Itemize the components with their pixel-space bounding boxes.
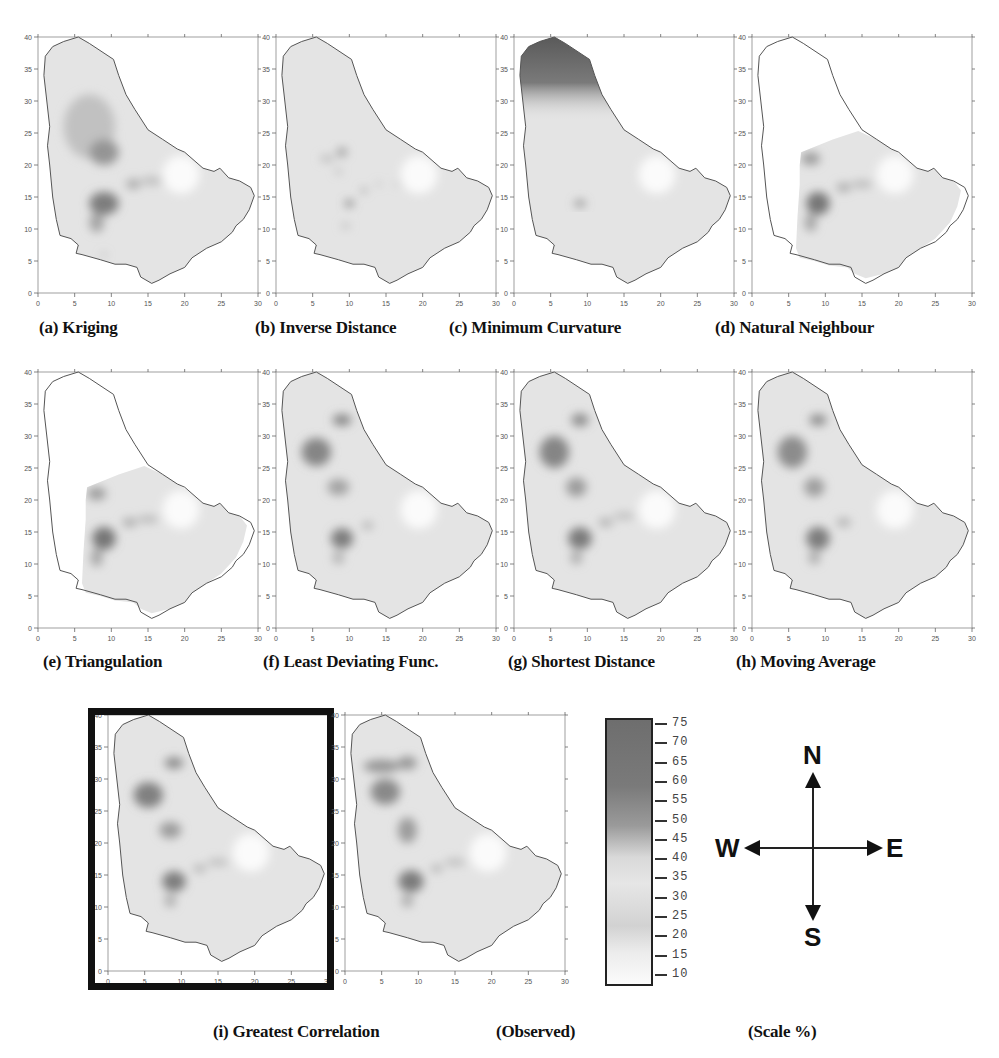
svg-text:30: 30 [24,433,32,440]
svg-text:25: 25 [931,300,939,307]
svg-text:30: 30 [500,98,508,105]
svg-text:10: 10 [345,300,353,307]
svg-text:35: 35 [331,744,339,751]
svg-text:20: 20 [657,300,665,307]
svg-text:15: 15 [620,300,628,307]
caption-i: (i) Greatest Correlation [213,1022,379,1042]
svg-text:15: 15 [382,635,390,642]
svg-text:0: 0 [750,300,754,307]
compass-east-label: E [886,833,903,864]
scale-tick-label: 45 [672,832,688,846]
svg-text:15: 15 [144,635,152,642]
svg-text:40: 40 [738,34,746,41]
svg-text:10: 10 [107,300,115,307]
svg-text:20: 20 [331,840,339,847]
svg-text:5: 5 [549,300,553,307]
caption-a: (a) Kriging [39,318,118,338]
scale-tick-label: 55 [672,793,688,807]
svg-text:10: 10 [500,561,508,568]
svg-text:25: 25 [262,465,270,472]
svg-text:30: 30 [738,433,746,440]
svg-text:25: 25 [331,808,339,815]
caption-scale: (Scale %) [748,1022,817,1042]
scale-tick [655,916,667,918]
svg-text:10: 10 [821,635,829,642]
caption-g: (g) Shortest Distance [508,652,655,672]
svg-text:15: 15 [858,635,866,642]
svg-text:10: 10 [500,226,508,233]
svg-text:15: 15 [500,194,508,201]
compass-rose: N S W E [740,730,890,950]
svg-text:5: 5 [311,635,315,642]
svg-text:15: 15 [620,635,628,642]
svg-text:5: 5 [742,258,746,265]
svg-text:35: 35 [738,66,746,73]
svg-text:0: 0 [266,290,270,297]
svg-text:20: 20 [488,978,496,985]
svg-text:25: 25 [24,465,32,472]
svg-text:15: 15 [262,529,270,536]
svg-text:20: 20 [738,497,746,504]
svg-text:40: 40 [24,34,32,41]
svg-text:0: 0 [36,300,40,307]
svg-text:0: 0 [274,635,278,642]
svg-text:5: 5 [380,978,384,985]
svg-text:30: 30 [262,98,270,105]
svg-text:10: 10 [107,635,115,642]
caption-b: (b) Inverse Distance [255,318,396,338]
svg-text:25: 25 [217,635,225,642]
svg-text:25: 25 [693,635,701,642]
svg-text:30: 30 [968,300,976,307]
svg-text:20: 20 [24,497,32,504]
svg-text:20: 20 [738,162,746,169]
scale-tick [655,877,667,879]
compass-south-label: S [804,922,821,953]
svg-text:25: 25 [217,300,225,307]
svg-text:40: 40 [24,369,32,376]
svg-text:10: 10 [583,300,591,307]
svg-text:10: 10 [262,226,270,233]
svg-text:20: 20 [262,162,270,169]
svg-text:10: 10 [331,904,339,911]
svg-text:20: 20 [419,635,427,642]
svg-text:5: 5 [73,635,77,642]
scale-tick-label: 35 [672,870,688,884]
best-method-highlight-frame [88,708,334,990]
svg-text:25: 25 [931,635,939,642]
scale-tick-label: 70 [672,735,688,749]
svg-text:5: 5 [549,635,553,642]
scale-tick-label: 30 [672,890,688,904]
svg-text:20: 20 [500,497,508,504]
scale-tick [655,781,667,783]
svg-text:5: 5 [266,258,270,265]
svg-text:40: 40 [262,34,270,41]
svg-text:35: 35 [262,66,270,73]
svg-text:40: 40 [738,369,746,376]
svg-text:25: 25 [500,130,508,137]
svg-text:15: 15 [382,300,390,307]
svg-text:5: 5 [504,593,508,600]
svg-text:5: 5 [742,593,746,600]
svg-text:30: 30 [561,978,569,985]
svg-text:10: 10 [262,561,270,568]
svg-text:30: 30 [500,433,508,440]
svg-text:5: 5 [504,258,508,265]
scale-tick [655,723,667,725]
svg-text:5: 5 [73,300,77,307]
svg-text:0: 0 [343,978,347,985]
compass-north-label: N [803,740,822,771]
svg-text:30: 30 [968,635,976,642]
svg-text:0: 0 [274,300,278,307]
scale-tick-label: 15 [672,948,688,962]
caption-c: (c) Minimum Curvature [449,318,621,338]
svg-text:20: 20 [24,162,32,169]
scale-tick-label: 20 [672,928,688,942]
svg-text:35: 35 [24,66,32,73]
scale-tick [655,955,667,957]
svg-text:35: 35 [738,401,746,408]
svg-text:35: 35 [500,401,508,408]
map-panel-g: 0510152025303540051015202530 [484,364,748,650]
svg-text:10: 10 [738,561,746,568]
scale-tick [655,839,667,841]
svg-text:25: 25 [738,130,746,137]
